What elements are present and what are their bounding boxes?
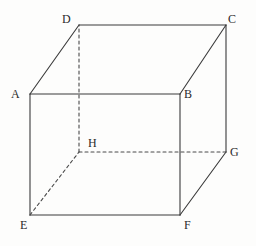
edge-EH (30, 152, 79, 215)
cube-figure: ABCDEFGH (0, 0, 256, 246)
vertex-label-e: E (20, 219, 27, 231)
cube-svg (0, 0, 256, 246)
vertex-label-h: H (88, 137, 97, 149)
solid-edge-group (30, 25, 226, 215)
vertex-label-f: F (184, 219, 191, 231)
edge-BC (180, 25, 226, 94)
edge-FG (180, 152, 226, 215)
edge-AD (30, 25, 79, 94)
vertex-label-c: C (228, 13, 236, 25)
vertex-label-b: B (184, 88, 192, 100)
vertex-label-g: G (230, 146, 239, 158)
vertex-label-a: A (11, 88, 20, 100)
vertex-label-d: D (62, 13, 71, 25)
